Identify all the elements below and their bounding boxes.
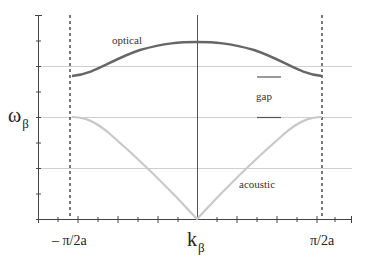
gap-label: gap xyxy=(256,90,272,102)
optical-label: optical xyxy=(112,34,142,46)
acoustic-label: acoustic xyxy=(239,178,275,190)
x-axis-label: kβ xyxy=(187,228,205,256)
x-tick-right-label: π/2a xyxy=(310,233,334,249)
y-axis-label: ωβ xyxy=(8,104,29,132)
dispersion-diagram xyxy=(0,0,366,265)
y-axis xyxy=(35,15,42,219)
omega-symbol: ω xyxy=(8,104,21,126)
k-symbol: k xyxy=(187,228,197,250)
omega-subscript: β xyxy=(22,116,29,131)
x-tick-left-label: – π/2a xyxy=(52,233,87,249)
k-subscript: β xyxy=(198,240,205,255)
grid-lines xyxy=(38,67,352,169)
